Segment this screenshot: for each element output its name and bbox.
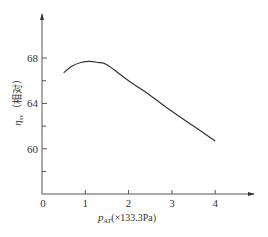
series-line	[64, 61, 216, 140]
x-tick-label: 3	[169, 197, 175, 209]
y-axis-label: ηsv（相对）	[11, 74, 25, 125]
axes	[42, 14, 254, 194]
x-tick-label: 4	[212, 197, 218, 209]
x-tick-label: 2	[126, 197, 132, 209]
x-tick-label: 0	[40, 197, 46, 209]
y-tick-label: 68	[27, 52, 39, 64]
x-axis-label: pAT(×133.3Pa)	[97, 211, 156, 225]
x-tick-label: 1	[83, 197, 89, 209]
x-ticks: 01234	[40, 190, 218, 209]
chart: 01234 606468 pAT(×133.3Pa) ηsv（相对）	[0, 0, 268, 237]
y-tick-label: 64	[27, 97, 39, 109]
y-tick-label: 60	[27, 143, 39, 155]
y-ticks: 606468	[27, 52, 47, 172]
